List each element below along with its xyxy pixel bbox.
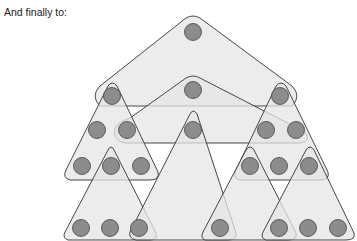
node-circle — [258, 122, 275, 139]
node-circle — [104, 88, 121, 105]
node-circle — [185, 82, 202, 99]
node-circle — [301, 158, 318, 175]
node-circle — [102, 220, 119, 237]
node-circle — [271, 158, 288, 175]
node-circle — [300, 220, 317, 237]
hypergraph-diagram — [0, 0, 357, 241]
node-circle — [185, 24, 202, 41]
node-circle — [74, 158, 91, 175]
node-circle — [73, 220, 90, 237]
node-circle — [185, 122, 202, 139]
node-circle — [131, 220, 148, 237]
node-circle — [272, 88, 289, 105]
node-circle — [133, 158, 150, 175]
node-circle — [242, 158, 259, 175]
node-circle — [103, 158, 120, 175]
node-circle — [330, 220, 347, 237]
node-circle — [271, 220, 288, 237]
node-circle — [119, 122, 136, 139]
node-circle — [212, 220, 229, 237]
node-circle — [288, 122, 305, 139]
node-circle — [89, 122, 106, 139]
